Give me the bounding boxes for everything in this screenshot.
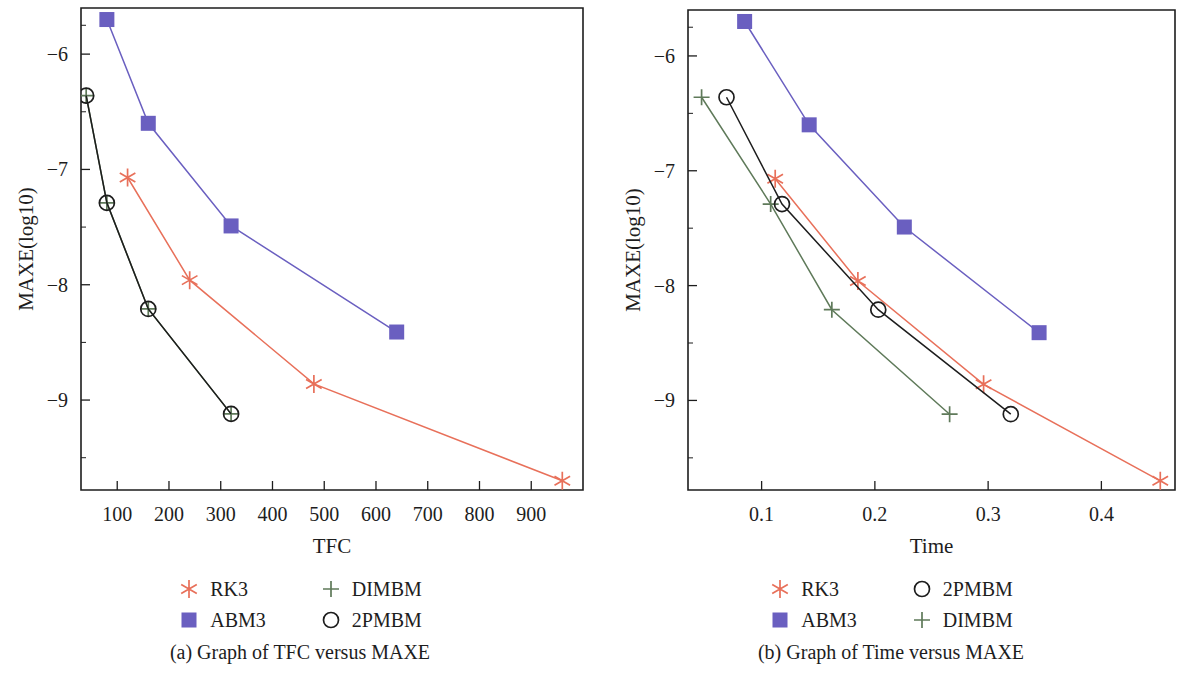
series-line-dimbm bbox=[702, 97, 950, 414]
x-tick-label: 700 bbox=[413, 503, 443, 525]
marker-square bbox=[802, 117, 817, 132]
x-tick-label: 400 bbox=[257, 503, 287, 525]
figure-two-panel-charts: −6−7−8−9100200300400500600700800900TFCMA… bbox=[0, 0, 1191, 674]
legend-star-icon bbox=[769, 578, 791, 600]
legend-label: DIMBM bbox=[352, 578, 422, 601]
legend-square-icon bbox=[769, 609, 791, 631]
caption-b: (b) Graph of Time versus MAXE bbox=[591, 641, 1191, 664]
marker-plus bbox=[694, 89, 710, 105]
chart-panel-b: −6−7−8−90.10.20.30.4TimeMAXE(log10) RK32… bbox=[591, 0, 1191, 674]
legend-item-rk3[interactable]: RK3 bbox=[769, 576, 857, 602]
series-line-abm3 bbox=[745, 21, 1039, 332]
legend-label: 2PMBM bbox=[352, 609, 422, 632]
x-tick-label: 100 bbox=[102, 503, 132, 525]
marker-plus bbox=[323, 581, 339, 597]
x-tick-label: 600 bbox=[361, 503, 391, 525]
x-tick-label: 0.3 bbox=[976, 503, 1001, 525]
y-tick-label: −7 bbox=[47, 158, 68, 180]
y-tick-label: −8 bbox=[654, 275, 675, 297]
series-abm3 bbox=[737, 14, 1046, 340]
legend-item-2pmbm[interactable]: 2PMBM bbox=[911, 576, 1013, 602]
marker-plus bbox=[914, 612, 930, 628]
marker-square bbox=[389, 325, 404, 340]
legend-circle-icon bbox=[911, 578, 933, 600]
series-line-rk3 bbox=[775, 179, 1160, 481]
chart-panel-a: −6−7−8−9100200300400500600700800900TFCMA… bbox=[0, 0, 600, 674]
legend-a: RK3DIMBMABM32PMBM bbox=[0, 576, 600, 636]
marker-star bbox=[976, 375, 992, 393]
x-axis-title: Time bbox=[910, 534, 954, 558]
y-tick-label: −9 bbox=[654, 389, 675, 411]
caption-a: (a) Graph of TFC versus MAXE bbox=[0, 641, 600, 664]
marker-star bbox=[555, 472, 571, 490]
legend-label: 2PMBM bbox=[943, 578, 1013, 601]
y-tick-label: −8 bbox=[47, 274, 68, 296]
y-tick-label: −6 bbox=[47, 43, 68, 65]
marker-square bbox=[773, 613, 788, 628]
marker-square bbox=[224, 218, 239, 233]
series-rk3 bbox=[767, 170, 1168, 490]
legend-label: ABM3 bbox=[210, 609, 266, 632]
x-tick-label: 200 bbox=[154, 503, 184, 525]
plot-area-b: −6−7−8−90.10.20.30.4TimeMAXE(log10) bbox=[591, 0, 1191, 576]
legend-label: ABM3 bbox=[801, 609, 857, 632]
legend-label: RK3 bbox=[801, 578, 839, 601]
series-2pmbm bbox=[719, 90, 1018, 422]
series-dimbm bbox=[78, 88, 239, 422]
marker-star bbox=[772, 580, 788, 598]
plot-area-a: −6−7−8−9100200300400500600700800900TFCMA… bbox=[0, 0, 600, 576]
marker-star bbox=[120, 169, 136, 187]
legend-item-abm3[interactable]: ABM3 bbox=[769, 607, 857, 633]
marker-square bbox=[99, 12, 114, 27]
x-tick-label: 0.4 bbox=[1089, 503, 1114, 525]
legend-label: RK3 bbox=[210, 578, 248, 601]
series-abm3 bbox=[99, 12, 404, 339]
marker-star bbox=[1152, 472, 1168, 490]
marker-square bbox=[141, 116, 156, 131]
axis-frame bbox=[81, 8, 583, 490]
marker-circle bbox=[914, 582, 929, 597]
y-tick-label: −7 bbox=[654, 160, 675, 182]
y-axis-title: MAXE(log10) bbox=[14, 187, 38, 311]
series-dimbm bbox=[694, 89, 958, 422]
legend-item-dimbm[interactable]: DIMBM bbox=[911, 607, 1013, 633]
legend-label: DIMBM bbox=[943, 609, 1013, 632]
legend-item-rk3[interactable]: RK3 bbox=[178, 576, 266, 602]
marker-star bbox=[306, 375, 322, 393]
marker-circle bbox=[323, 613, 338, 628]
legend-item-2pmbm[interactable]: 2PMBM bbox=[320, 607, 422, 633]
marker-square bbox=[897, 220, 912, 235]
legend-plus-icon bbox=[911, 609, 933, 631]
series-line-2pmbm bbox=[727, 97, 1011, 414]
marker-square bbox=[1032, 325, 1047, 340]
axis-frame bbox=[688, 10, 1175, 490]
x-tick-label: 300 bbox=[206, 503, 236, 525]
y-tick-label: −9 bbox=[47, 389, 68, 411]
legend-star-icon bbox=[178, 578, 200, 600]
x-tick-label: 500 bbox=[309, 503, 339, 525]
series-line-rk3 bbox=[128, 178, 563, 481]
legend-plus-icon bbox=[320, 578, 342, 600]
x-tick-label: 0.1 bbox=[749, 503, 774, 525]
x-tick-label: 900 bbox=[516, 503, 546, 525]
legend-square-icon bbox=[178, 609, 200, 631]
x-tick-label: 800 bbox=[464, 503, 494, 525]
x-tick-label: 0.2 bbox=[862, 503, 887, 525]
legend-item-dimbm[interactable]: DIMBM bbox=[320, 576, 422, 602]
series-2pmbm bbox=[79, 88, 239, 421]
series-line-2pmbm bbox=[86, 96, 231, 414]
x-axis-title: TFC bbox=[313, 534, 352, 558]
y-axis-title: MAXE(log10) bbox=[621, 188, 645, 312]
marker-square bbox=[182, 613, 197, 628]
legend-circle-icon bbox=[320, 609, 342, 631]
marker-square bbox=[737, 14, 752, 29]
y-tick-label: −6 bbox=[654, 45, 675, 67]
legend-b: RK32PMBMABM3DIMBM bbox=[591, 576, 1191, 636]
legend-item-abm3[interactable]: ABM3 bbox=[178, 607, 266, 633]
series-line-dimbm bbox=[86, 96, 231, 414]
series-rk3 bbox=[120, 169, 570, 490]
marker-star bbox=[181, 580, 197, 598]
series-line-abm3 bbox=[107, 20, 397, 332]
marker-star bbox=[182, 271, 198, 289]
